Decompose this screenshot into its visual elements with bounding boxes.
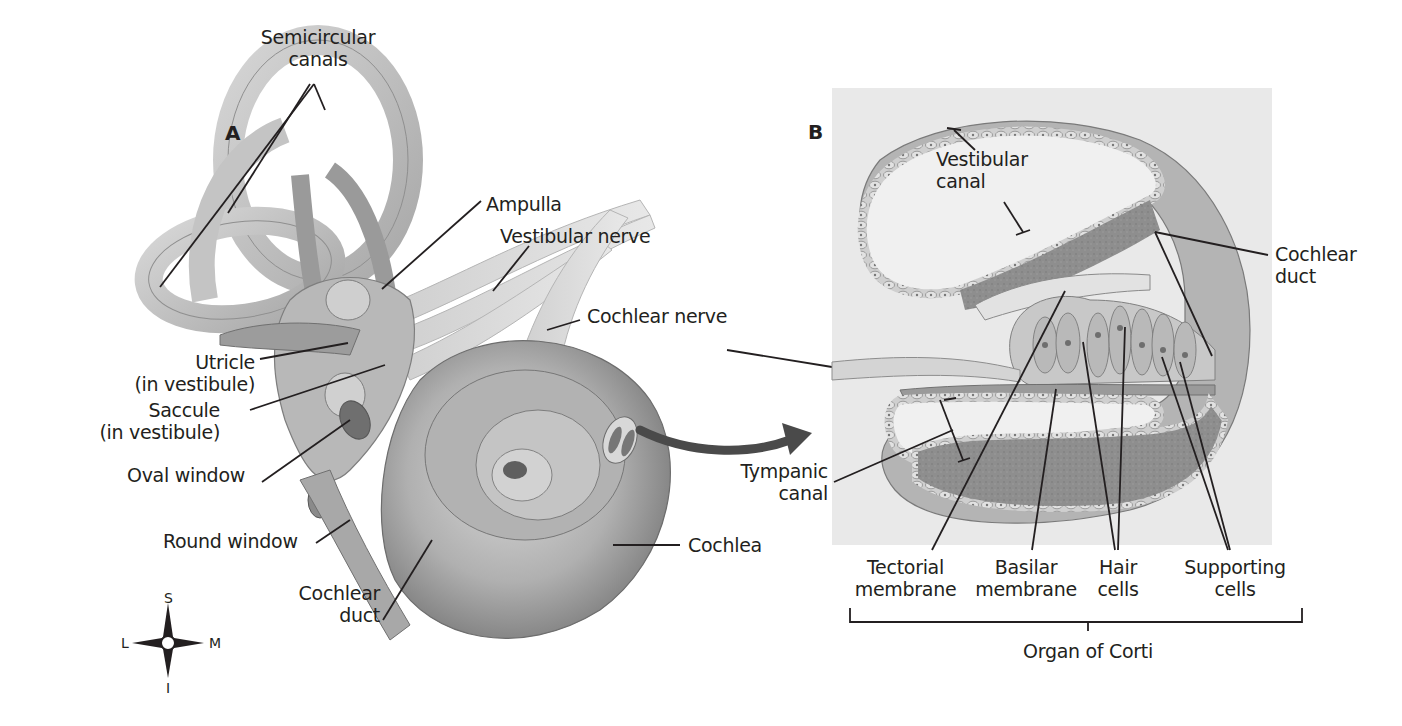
panel-a-letter: A xyxy=(225,121,240,145)
label-vestibular-canal: Vestibular canal xyxy=(936,148,1028,192)
zoom-arrow-head xyxy=(782,423,812,455)
inner-ear-figure: A B Semicircular canals Ampulla Vestibul… xyxy=(0,0,1402,726)
compass-superior: S xyxy=(164,590,173,606)
label-cochlea: Cochlea xyxy=(688,534,762,556)
orientation-compass xyxy=(132,603,204,678)
label-semicircular-canals: Semicircular canals xyxy=(233,26,403,70)
cochlea xyxy=(381,341,670,639)
compass-medial: M xyxy=(209,635,221,651)
compass-lateral: L xyxy=(121,635,129,651)
label-supporting-cells: Supporting cells xyxy=(1180,556,1290,600)
label-cochlear-duct-a: Cochlear duct xyxy=(280,582,380,626)
label-oval-window: Oval window xyxy=(127,464,245,486)
label-cochlear-nerve: Cochlear nerve xyxy=(587,305,727,327)
compass-inferior: I xyxy=(166,680,170,696)
label-tympanic-canal: Tympanic canal xyxy=(700,460,828,504)
panel-b-artwork xyxy=(832,88,1302,631)
label-saccule: Saccule (in vestibule) xyxy=(40,399,220,443)
label-cochlear-duct-b: Cochlear duct xyxy=(1275,243,1356,287)
label-utricle: Utricle (in vestibule) xyxy=(40,351,255,395)
label-hair-cells: Hair cells xyxy=(1090,556,1146,600)
label-organ-of-corti: Organ of Corti xyxy=(1013,640,1163,662)
label-ampulla: Ampulla xyxy=(486,193,562,215)
label-vestibular-nerve: Vestibular nerve xyxy=(500,225,650,247)
label-round-window: Round window xyxy=(163,530,298,552)
label-basilar-membrane: Basilar membrane xyxy=(970,556,1082,600)
label-tectorial-membrane: Tectorial membrane xyxy=(853,556,958,600)
panel-b-letter: B xyxy=(808,120,823,144)
